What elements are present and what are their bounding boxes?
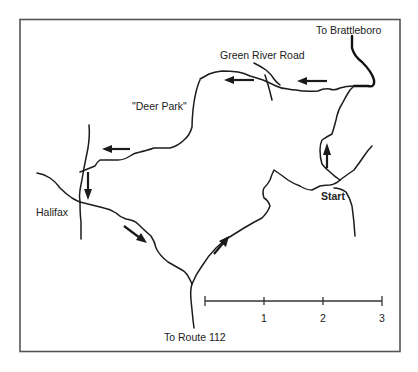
road-start-northeast (340, 146, 372, 180)
label-start: Start (321, 190, 345, 202)
scale-label-3: 3 (379, 312, 385, 324)
road-green-river-main (200, 71, 354, 91)
label-to-brattleboro: To Brattleboro (316, 24, 382, 36)
road-to-route-112 (191, 284, 194, 328)
arrow-junction-northeast (214, 236, 229, 254)
road-halifax-west (37, 173, 80, 202)
road-spur (265, 75, 272, 100)
arrow-start-north (323, 143, 331, 168)
label-to-route-112: To Route 112 (164, 331, 226, 343)
road-junction-to-start (192, 170, 340, 284)
arrow-halifax-south (84, 172, 92, 200)
road-deer-park (80, 80, 200, 172)
road-to-brattleboro (352, 36, 374, 86)
route-map: To Brattleboro Green River Road "Deer Pa… (0, 0, 418, 372)
label-halifax: Halifax (36, 206, 69, 218)
scale-bar: 1 2 3 (205, 296, 385, 324)
scale-label-1: 1 (261, 312, 267, 324)
label-green-river-road: Green River Road (220, 49, 305, 61)
arrow-green-river-west (224, 76, 254, 84)
scale-label-2: 2 (320, 312, 326, 324)
arrow-green-river-east (297, 77, 327, 85)
map-frame (20, 20, 400, 352)
road-start-north (320, 86, 354, 180)
label-deer-park: "Deer Park" (132, 100, 187, 112)
road-halifax-southeast (80, 202, 192, 284)
arrow-deer-park (102, 145, 130, 153)
